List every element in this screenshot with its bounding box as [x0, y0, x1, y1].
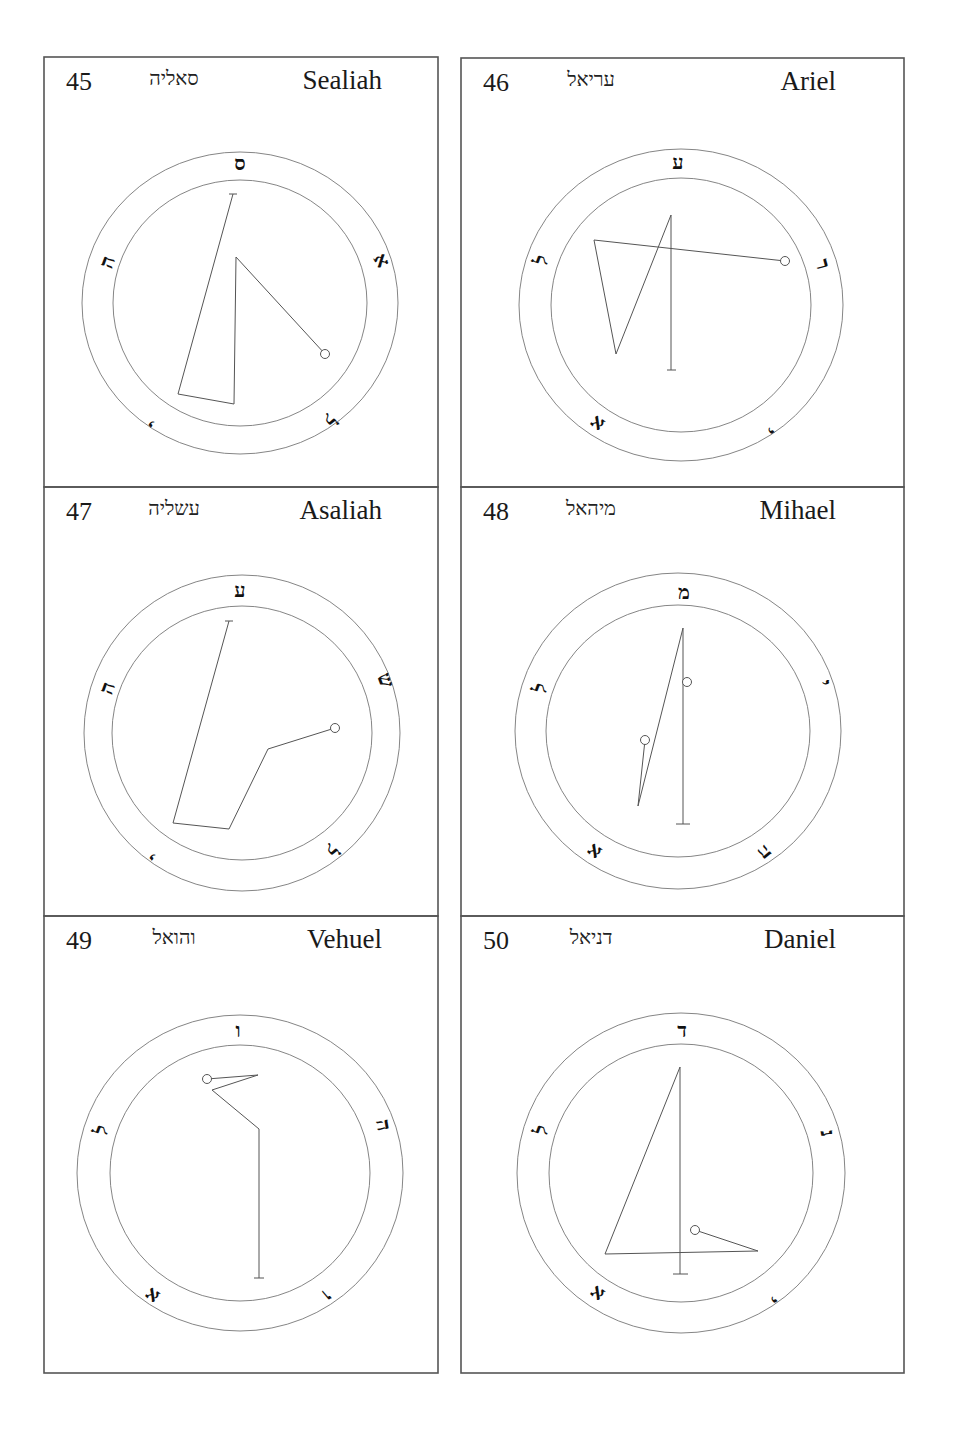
seal-panel-49: 49והואלVehuelוהואל — [44, 916, 438, 1373]
hebrew-name: עשליה — [148, 496, 200, 520]
outer-ring — [517, 1013, 845, 1333]
hebrew-name: סאליה — [149, 66, 198, 90]
angel-name: Asaliah — [300, 495, 383, 525]
hebrew-name: דניאל — [569, 925, 613, 949]
panel-frame — [44, 487, 438, 916]
ring-letter: ע — [234, 578, 245, 602]
sigil-start-circle — [781, 257, 790, 266]
panel-frame — [461, 916, 904, 1373]
ring-letter: ר — [810, 256, 836, 272]
seal-number: 45 — [66, 67, 92, 96]
ring-letter: ה — [753, 840, 777, 866]
angel-name: Daniel — [764, 924, 836, 954]
angel-name: Mihael — [760, 495, 836, 525]
outer-ring — [82, 152, 398, 454]
angel-seals-sheet: 45סאליהSealiahסאליה46עריאלArielעריאל47עש… — [0, 0, 954, 1449]
seal-number: 49 — [66, 926, 92, 955]
ring-letter: א — [585, 410, 609, 437]
sigil-line — [207, 1075, 259, 1278]
inner-ring — [546, 605, 810, 857]
ring-letter: נ — [816, 1128, 841, 1139]
outer-ring — [77, 1015, 403, 1331]
inner-ring — [112, 606, 372, 860]
outer-ring — [84, 575, 400, 891]
ring-letter: א — [140, 1282, 164, 1309]
sigil-line — [605, 1067, 758, 1274]
sigil-line — [173, 621, 335, 829]
sigil-start-circle — [331, 724, 340, 733]
sigil-line — [638, 628, 683, 824]
hebrew-name: והואל — [151, 925, 195, 949]
outer-ring — [515, 573, 841, 889]
seal-panel-46: 46עריאלArielעריאל — [461, 58, 904, 487]
ring-letter: ל — [321, 837, 344, 862]
ring-letter: ל — [527, 679, 553, 697]
panel-frame — [44, 57, 438, 487]
ring-letter: ו — [235, 1018, 240, 1042]
angel-name: Ariel — [781, 66, 836, 96]
inner-ring — [549, 1044, 813, 1302]
sigil-start-circle — [641, 736, 650, 745]
ring-letter: מ — [678, 580, 690, 604]
seal-number: 50 — [483, 926, 509, 955]
ring-letter: ע — [672, 150, 683, 174]
ring-letter: א — [585, 1280, 609, 1307]
inner-ring — [551, 178, 811, 432]
seal-number: 48 — [483, 497, 509, 526]
ring-letter: י — [763, 1288, 782, 1310]
sigil-line — [178, 194, 325, 404]
seal-number: 47 — [66, 497, 92, 526]
sigil-line — [594, 215, 785, 370]
ring-letter: י — [813, 677, 838, 688]
ring-letter: י — [760, 419, 779, 441]
inner-ring — [110, 1045, 370, 1301]
panel-frame — [461, 58, 904, 487]
seal-number: 46 — [483, 68, 509, 97]
panel-frame — [44, 916, 438, 1373]
ring-letter: ש — [372, 669, 399, 691]
sigil-start-circle — [691, 1226, 700, 1235]
ring-letter: ל — [319, 407, 342, 432]
ring-letter: ל — [528, 251, 554, 269]
angel-name: Sealiah — [303, 65, 383, 95]
ring-letter: י — [142, 412, 161, 434]
seal-panel-45: 45סאליהSealiahסאליה — [44, 57, 438, 487]
angel-name: Vehuel — [307, 924, 382, 954]
ring-letter: ל — [528, 1121, 554, 1139]
hebrew-name: מיהאל — [565, 496, 616, 520]
seal-panel-47: 47עשליהAsaliahעשליה — [44, 487, 438, 916]
hebrew-name: עריאל — [566, 67, 615, 91]
sigil-start-circle — [321, 350, 330, 359]
ring-letter: ד — [677, 1018, 687, 1042]
inner-ring — [113, 180, 367, 426]
sigil-start-circle — [683, 678, 692, 687]
ring-letter: ס — [234, 151, 245, 175]
ring-letter: א — [368, 248, 395, 271]
sigil-start-circle — [203, 1075, 212, 1084]
seal-panel-50: 50דניאלDanielדניאל — [461, 916, 904, 1373]
outer-ring — [519, 149, 843, 461]
ring-letter: ה — [371, 1117, 397, 1133]
ring-letter: א — [582, 838, 606, 865]
seal-panel-48: 48מיהאלMihaelמיהאל — [461, 487, 904, 916]
ring-letter: ה — [94, 252, 120, 271]
ring-letter: ו — [317, 1285, 336, 1307]
ring-letter: ל — [88, 1121, 114, 1139]
ring-letter: ה — [94, 678, 120, 697]
